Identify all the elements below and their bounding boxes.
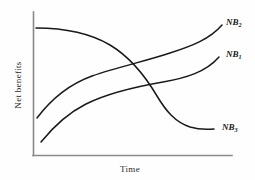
curve-nb2-ascending xyxy=(37,25,222,118)
curve-nb3-descending xyxy=(36,28,214,129)
x-axis-title: Time xyxy=(120,164,140,174)
curve-label-nb2-subscript: 2 xyxy=(238,21,242,28)
curve-label-nb3: NB3 xyxy=(221,122,238,133)
curve-label-nb3-subscript: 3 xyxy=(234,126,238,133)
figure-container: NB2 NB1 NB3 Net benefits Time xyxy=(0,0,255,180)
curve-label-nb1-subscript: 1 xyxy=(239,53,242,60)
curve-nb1-middle xyxy=(41,57,219,142)
curve-label-nb2: NB2 xyxy=(225,17,242,28)
net-benefits-chart: NB2 NB1 NB3 Net benefits Time xyxy=(0,0,255,180)
y-axis-title: Net benefits xyxy=(13,61,23,109)
curve-label-nb1: NB1 xyxy=(225,49,242,60)
